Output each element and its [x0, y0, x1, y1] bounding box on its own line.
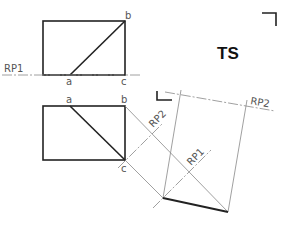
point-c-label-top: c [121, 76, 127, 87]
point-a-label-top: a [66, 76, 72, 87]
drawing-svg: TS RP1 a b c a b c RP2 RP1 RP2 [0, 0, 288, 225]
front-view-diagonal [70, 106, 125, 160]
top-view-rect [43, 21, 125, 75]
projector-b [125, 106, 228, 212]
corner-mark [262, 13, 276, 26]
true-size-edge [163, 198, 228, 212]
point-b-label-top: b [125, 10, 131, 21]
point-a-label-front: a [66, 94, 72, 105]
point-b-label-front: b [121, 94, 127, 105]
front-view-rect [43, 106, 125, 160]
top-view-diagonal [70, 21, 125, 75]
aux-right-edge [228, 100, 247, 212]
top-view: RP1 a b c [2, 10, 142, 87]
front-view: a b c [43, 94, 127, 174]
l-marker [157, 91, 172, 100]
true-size-label: TS [217, 44, 239, 63]
projector-c [125, 160, 163, 198]
rp1-diagonal-label: RP1 [185, 146, 206, 167]
rp1-label: RP1 [4, 63, 23, 74]
aux-left-edge [163, 90, 181, 198]
rp2-diagonal-label: RP2 [147, 108, 168, 129]
projection-lines [125, 90, 247, 212]
technical-drawing: TS RP1 a b c a b c RP2 RP1 RP2 [0, 0, 288, 225]
rp1-diagonal-line [153, 150, 211, 208]
